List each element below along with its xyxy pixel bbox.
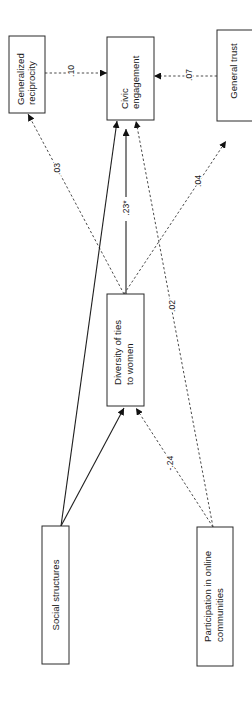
dashed-arrow-line	[124, 141, 226, 294]
node-diversity-of-ties-to-women: Diversity of ties to women	[107, 294, 144, 406]
node-label-line: Generalized	[15, 53, 26, 105]
node-social-structures: Social structures	[42, 526, 69, 664]
node-participation-in-online-communities: Participation in online communities	[197, 527, 233, 666]
node-label-line: Civic	[119, 88, 130, 109]
node-label-line: General trust	[228, 43, 239, 99]
edge-diversity-to-trust: .04	[124, 141, 226, 294]
edge-reciprocity-to-civic: .10	[45, 65, 107, 77]
node-civic-engagement: Civic engagement	[107, 37, 154, 120]
coefficient-label: .07	[184, 69, 194, 81]
node-label-line: engagement	[130, 55, 141, 109]
node-general-trust: General trust	[217, 30, 252, 121]
node-label-line: Diversity of ties	[112, 320, 123, 385]
coefficient-label: .23*	[121, 200, 131, 216]
edge-social-to-diversity	[61, 408, 124, 526]
coefficient-label: .03	[52, 163, 62, 175]
edge-diversity-to-civic: .23*	[121, 129, 131, 294]
coefficient-label: .02	[167, 300, 177, 312]
node-label-line: to women	[124, 343, 135, 385]
dashed-arrow-line	[28, 114, 124, 294]
edge-trust-to-civic: .07	[154, 69, 217, 81]
coefficient-label: .10	[66, 65, 76, 77]
node-generalized-reciprocity: Generalized reciprocity	[9, 36, 45, 113]
node-label-line: Social structures	[50, 559, 61, 630]
coefficient-label: .04	[193, 175, 203, 187]
node-label-line: Participation in online	[202, 551, 213, 642]
node-label-line: reciprocity	[26, 61, 37, 105]
coefficient-label: -.24	[165, 455, 175, 470]
edge-diversity-to-reciprocity: .03	[28, 114, 124, 294]
node-label-line: communities	[214, 588, 225, 642]
solid-arrow-line	[61, 408, 124, 526]
path-diagram: .10 .07 .03 .23* .04 .02 -.24 Generalize…	[0, 0, 252, 707]
